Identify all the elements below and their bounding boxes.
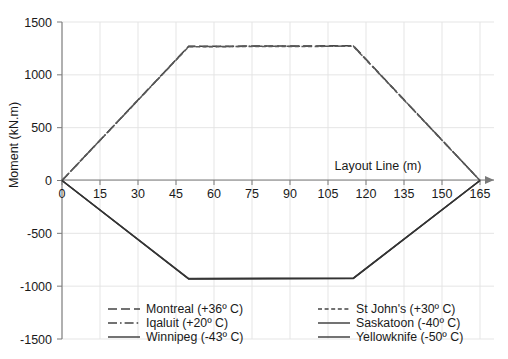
legend-label: Winnipeg (-43º C) [146, 330, 243, 344]
x-tick-label: 165 [470, 187, 491, 201]
x-tick-label: 60 [207, 187, 221, 201]
y-tick-label: -500 [27, 227, 52, 241]
x-tick-label: 120 [356, 187, 377, 201]
x-axis-title: Layout Line (m) [335, 159, 422, 173]
y-tick-label: 1000 [24, 68, 52, 82]
chart-container: 0153045607590105120135150165 15001000500… [0, 0, 508, 359]
legend-label: Montreal (+36º C) [146, 302, 243, 316]
x-tick-label: 30 [131, 187, 145, 201]
y-tick-label: -1000 [20, 280, 52, 294]
legend-label: Saskatoon (-40º C) [356, 316, 460, 330]
legend-label: Iqaluit (+20º C) [146, 316, 228, 330]
x-tick-label: 15 [93, 187, 107, 201]
x-tick-label: 90 [283, 187, 297, 201]
x-tick-label: 75 [245, 187, 259, 201]
legend-label: St John's (+30º C) [356, 302, 455, 316]
legend-label: Yellowknife (-50º C) [356, 330, 463, 344]
x-tick-label: 135 [394, 187, 415, 201]
x-tick-label: 105 [318, 187, 339, 201]
moment-vs-layout-line-chart: 0153045607590105120135150165 15001000500… [0, 0, 508, 359]
y-axis-title: Moment (kN.m) [7, 102, 21, 188]
y-tick-label: 0 [45, 174, 52, 188]
x-tick-label: 150 [432, 187, 453, 201]
y-tick-label: 1500 [24, 16, 52, 30]
x-tick-label: 0 [59, 187, 66, 201]
y-tick-label: -1500 [20, 333, 52, 347]
y-tick-label: 500 [31, 121, 52, 135]
x-tick-label: 45 [169, 187, 183, 201]
